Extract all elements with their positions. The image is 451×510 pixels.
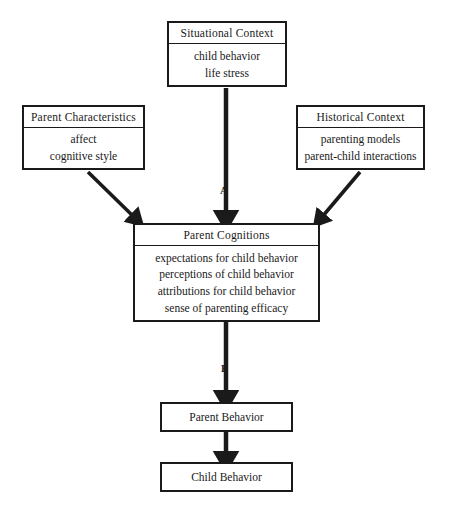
diagram-canvas: Situational Context child behavior life … xyxy=(0,0,451,510)
node-historical-context-item: parenting models xyxy=(321,131,401,148)
node-child-behavior: Child Behavior xyxy=(160,462,293,492)
edge-label-b: B xyxy=(221,364,228,375)
node-historical-context-item: parent-child interactions xyxy=(304,148,416,165)
node-situational-context-body: child behavior life stress xyxy=(169,44,285,85)
node-parent-characteristics: Parent Characteristics affect cognitive … xyxy=(22,105,145,170)
node-parent-characteristics-title: Parent Characteristics xyxy=(24,107,143,127)
node-situational-context-item: life stress xyxy=(205,65,249,82)
node-parent-cognitions-item: sense of parenting efficacy xyxy=(165,300,288,317)
node-historical-context-body: parenting models parent-child interactio… xyxy=(298,128,423,168)
node-parent-cognitions-item: attributions for child behavior xyxy=(158,283,296,300)
node-historical-context-title: Historical Context xyxy=(298,107,423,127)
node-historical-context: Historical Context parenting models pare… xyxy=(296,105,425,170)
node-parent-cognitions-item: expectations for child behavior xyxy=(155,250,298,267)
node-parent-behavior-title: Parent Behavior xyxy=(189,411,263,423)
node-parent-cognitions-title: Parent Cognitions xyxy=(135,225,318,245)
node-child-behavior-title: Child Behavior xyxy=(191,471,262,483)
node-situational-context-title: Situational Context xyxy=(169,23,285,43)
node-parent-characteristics-item: cognitive style xyxy=(50,148,117,165)
node-parent-characteristics-body: affect cognitive style xyxy=(24,128,143,168)
node-situational-context-item: child behavior xyxy=(194,48,260,65)
node-parent-cognitions-item: perceptions of child behavior xyxy=(159,266,293,283)
node-parent-cognitions: Parent Cognitions expectations for child… xyxy=(133,223,320,322)
node-parent-behavior: Parent Behavior xyxy=(160,402,293,432)
edge-label-a: A xyxy=(220,186,228,197)
node-parent-characteristics-item: affect xyxy=(71,131,97,148)
edge-historical-to-cognitions xyxy=(322,172,360,217)
node-parent-cognitions-body: expectations for child behavior percepti… xyxy=(135,246,318,320)
node-situational-context: Situational Context child behavior life … xyxy=(167,21,287,87)
edge-parent-characteristics-to-cognitions xyxy=(88,172,134,217)
